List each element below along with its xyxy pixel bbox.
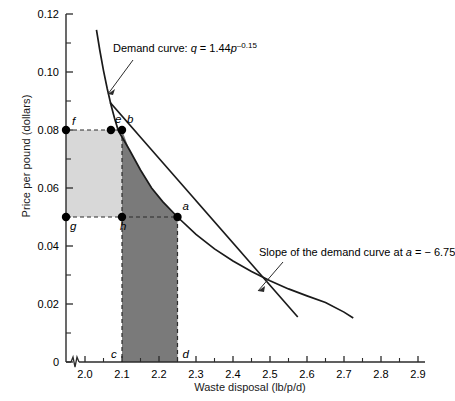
demand-curve-plot: 2.02.12.22.32.42.52.62.72.82.9 00.020.04… <box>0 0 455 401</box>
data-point-g <box>62 213 70 221</box>
y-tick-label: 0.06 <box>38 182 59 194</box>
light-gray-rectangle-fghe <box>66 130 122 217</box>
x-tick-label: 2.1 <box>114 368 129 380</box>
y-axis-title: Price per pound (dollars) <box>20 86 32 226</box>
x-axis-title: Waste disposal (lb/p/d) <box>150 381 350 393</box>
y-axis-tick-labels: 00.020.040.060.080.100.12 <box>38 8 59 368</box>
data-point-b <box>118 126 126 134</box>
point-label-g: g <box>70 220 77 232</box>
x-tick-label: 2.2 <box>151 368 166 380</box>
point-label-d: d <box>183 348 190 360</box>
y-tick-label: 0 <box>53 356 59 368</box>
x-tick-label: 2.0 <box>77 368 92 380</box>
y-axis-ticks <box>66 14 73 362</box>
data-point-e <box>107 126 115 134</box>
point-label-a: a <box>183 200 189 212</box>
y-tick-label: 0.04 <box>38 240 59 252</box>
point-label-h: h <box>120 220 126 232</box>
x-tick-label: 2.7 <box>336 368 351 380</box>
chart-figure: 2.02.12.22.32.42.52.62.72.82.9 00.020.04… <box>0 0 455 401</box>
point-label-f: f <box>72 115 77 127</box>
x-tick-label: 2.4 <box>225 368 240 380</box>
demand-curve-equation-label: Demand curve: q = 1.44p–0.15 <box>113 41 257 54</box>
x-tick-label: 2.5 <box>262 368 277 380</box>
x-tick-label: 2.9 <box>410 368 425 380</box>
x-tick-label: 2.6 <box>299 368 314 380</box>
x-axis-tick-labels: 2.02.12.22.32.42.52.62.72.82.9 <box>77 368 425 380</box>
point-label-b: b <box>127 113 134 125</box>
y-tick-label: 0.02 <box>38 298 59 310</box>
point-label-e: e <box>115 113 121 125</box>
y-tick-label: 0.12 <box>38 8 59 20</box>
y-tick-label: 0.10 <box>38 66 59 78</box>
y-tick-label: 0.08 <box>38 124 59 136</box>
slope-annotation-label: Slope of the demand curve at a = − 6.75 <box>259 246 455 258</box>
data-point-f <box>62 126 70 134</box>
demand-curve-leader-line <box>108 60 133 94</box>
x-tick-label: 2.3 <box>188 368 203 380</box>
data-point-a <box>173 213 181 221</box>
dark-gray-region-bcda <box>122 130 178 362</box>
point-label-c: c <box>111 348 117 360</box>
x-tick-label: 2.8 <box>373 368 388 380</box>
